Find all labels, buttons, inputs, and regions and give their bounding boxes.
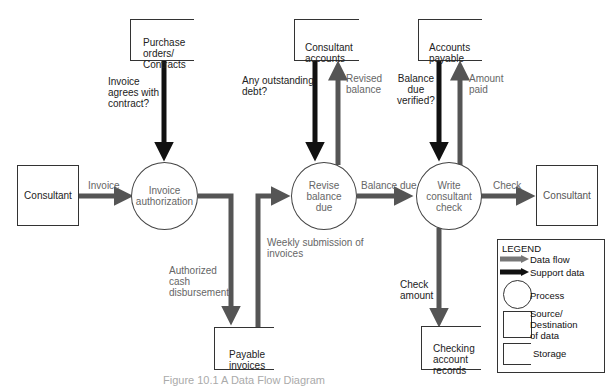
label-balance-due: Balance due [361,180,417,191]
figure-caption: Figure 10.1 A Data Flow Diagram [163,374,325,386]
legend-source-label: Source/ Destination of data [530,308,578,341]
label-revised: Revised balance [346,73,382,95]
legend: LEGEND Data flow Support data Process So… [497,239,605,373]
legend-process-label: Process [530,290,564,301]
store-checking-account-records: Checking account records [421,326,481,370]
legend-process-icon [503,280,532,309]
label-check: Check [493,180,521,191]
label-verified: Balance due verified? [397,73,435,106]
process-revise-balance-due: Revise balance due [291,162,357,230]
legend-support-data-icon [500,267,530,277]
legend-source-icon [503,311,532,338]
store-payable-invoices: Payable invoices [214,327,274,370]
label-contract-check: Invoice agrees with contract? [108,76,159,109]
process-invoice-authorization: Invoice authorization [131,162,198,230]
legend-title: LEGEND [502,243,541,254]
store-accounts-payable: Accounts payable [418,19,482,61]
legend-data-flow-icon [500,254,530,264]
legend-storage-label: Storage [533,348,566,359]
source-consultant-left: Consultant [17,165,79,226]
label-weekly: Weekly submission of invoices [267,237,364,259]
legend-data-flow-label: Data flow [530,254,570,265]
destination-consultant-right: Consultant [536,165,598,226]
label-outstanding: Any outstanding debt? [242,75,314,97]
store-purchase-orders: Purchase orders/ Contracts [130,19,194,61]
flow-authorized [198,196,231,318]
legend-support-data-label: Support data [530,267,584,278]
source-label: Consultant [24,190,72,201]
store-consultant-accounts: Consultant accounts [294,19,359,61]
label-authorized: Authorized cash disbursement [169,265,229,298]
destination-label: Consultant [543,190,591,201]
legend-storage-icon [503,343,531,365]
flow-weekly [258,196,283,327]
label-invoice: Invoice [88,180,120,191]
process-write-consultant-check: Write consultant check [416,162,482,230]
label-amount-paid: Amount paid [469,73,503,95]
label-check-amount: Check amount [400,279,433,301]
